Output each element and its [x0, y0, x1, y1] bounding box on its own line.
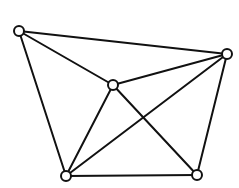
node-center — [108, 80, 118, 90]
node-bottom-right — [192, 170, 202, 180]
edge-top-left-bottom-left — [19, 31, 66, 176]
node-top-left — [14, 26, 24, 36]
edges-group — [19, 31, 227, 176]
edge-bottom-left-bottom-right — [66, 175, 197, 176]
edge-center-bottom-left — [66, 85, 113, 176]
node-bottom-left — [61, 171, 71, 181]
edge-center-right — [113, 54, 227, 85]
graph-diagram — [0, 0, 239, 188]
node-right — [222, 49, 232, 59]
edge-top-left-right — [19, 31, 227, 54]
nodes-group — [14, 26, 232, 181]
